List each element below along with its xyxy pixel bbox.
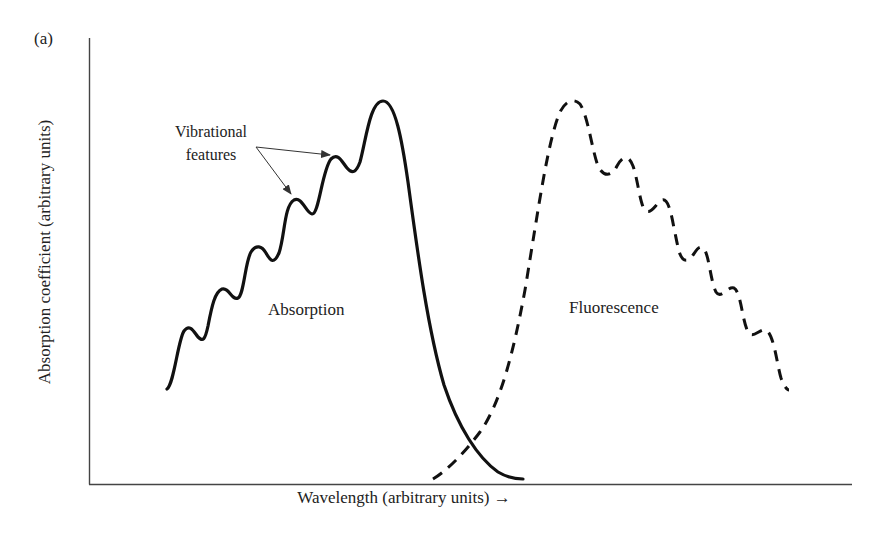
annotation-arrow-lower — [256, 147, 291, 194]
annotation-line-2: features — [161, 143, 261, 166]
annotation-line-1: Vibrational — [161, 120, 261, 143]
absorption-label: Absorption — [268, 301, 345, 318]
fluorescence-curve — [433, 101, 789, 479]
annotation-arrow-upper — [256, 147, 330, 155]
panel-label: (a) — [34, 30, 53, 47]
y-axis-label: Absorption coefficient (arbitrary units) — [36, 120, 53, 385]
vibrational-features-annotation: Vibrational features — [161, 120, 261, 166]
fluorescence-label: Fluorescence — [569, 299, 659, 316]
x-axis-label: Wavelength (arbitrary units) → — [297, 489, 510, 506]
chart-plot-area — [0, 0, 876, 547]
